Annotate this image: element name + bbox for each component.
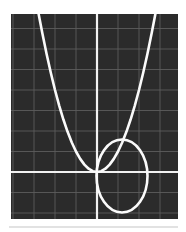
figure-root bbox=[0, 0, 186, 232]
math-plot-canvas bbox=[0, 0, 186, 232]
plot-background bbox=[11, 14, 178, 219]
